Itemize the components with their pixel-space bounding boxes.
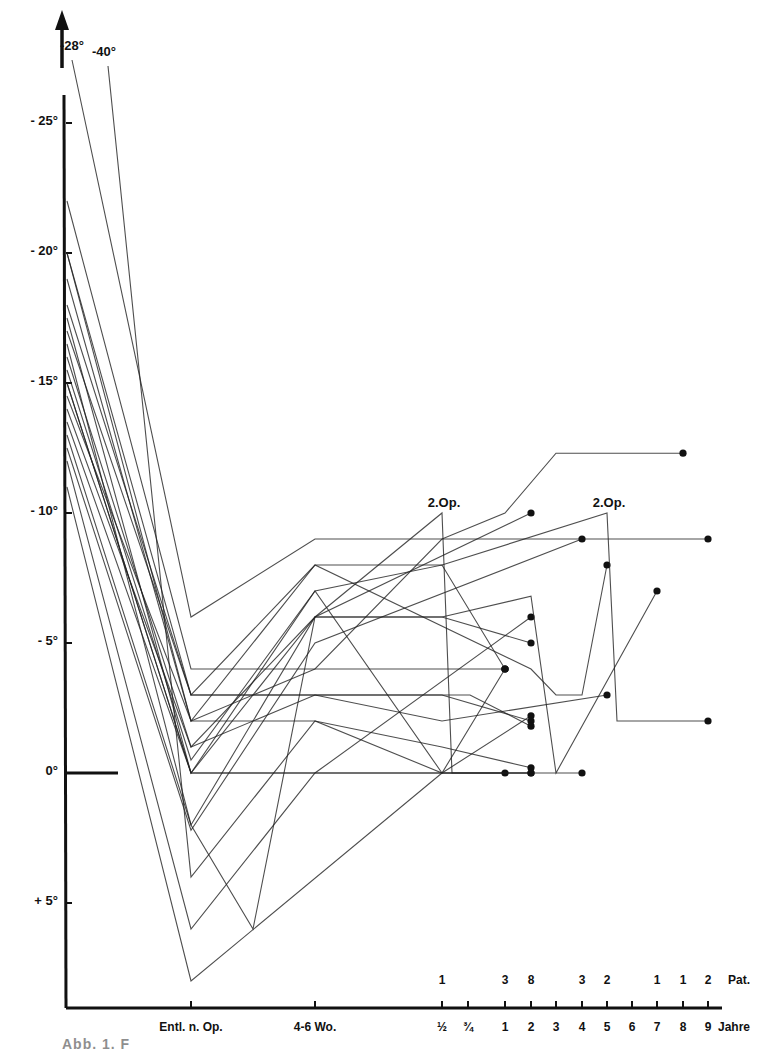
reoperation-annotation: 2.Op. [593,495,626,510]
y-axis-line [64,95,66,1008]
patient-line [67,318,531,773]
y-tick-label: - 20° [30,243,58,258]
patient-line [72,60,683,617]
patient-line [67,383,582,773]
patient-line [67,357,531,773]
endpoint-dot [527,723,534,730]
x-tick-label: 4-6 Wo. [294,1020,336,1034]
endpoint-dot [578,535,585,542]
patient-count: 3 [502,973,509,987]
x-axis: Entl. n. Op.4-6 Wo.½¾123456789Jahre [66,1001,750,1034]
endpoint-dot [679,450,686,457]
x-tick-label: 6 [629,1020,636,1034]
x-axis-ticks: Entl. n. Op.4-6 Wo.½¾123456789Jahre [159,1001,750,1034]
endpoint-dot [704,535,711,542]
x-tick-label: 1 [502,1020,509,1034]
figure-caption: Abb. 1. F [62,1036,130,1052]
endpoint-dot [578,769,585,776]
endpoint-dot [653,587,660,594]
x-tick-label: 7 [654,1020,661,1034]
x-tick-label: 5 [604,1020,611,1034]
y-tick-label: - 25° [30,113,58,128]
patient-series [67,60,712,981]
endpoint-dot [527,509,534,516]
chart-canvas: - 25°- 20°- 15°- 10°- 5°0°+ 5° Entl. n. … [0,0,773,1054]
patient-line [67,487,531,981]
x-tick-label: Entl. n. Op. [159,1020,222,1034]
endpoint-dot [527,769,534,776]
x-tick-label: 8 [680,1020,687,1034]
patient-count-label: Pat. [728,973,750,987]
x-tick-label: 3 [553,1020,560,1034]
y-tick-label: + 5° [34,893,58,908]
y-tick-label: - 15° [30,373,58,388]
patient-line [67,201,708,669]
y-tick-label: - 10° [30,503,58,518]
offscale-value-label: -40° [92,44,116,59]
offscale-labels: -28°-40° [60,38,116,59]
patient-count: 2 [705,973,712,987]
endpoint-dot [501,665,508,672]
patient-count: 1 [654,973,661,987]
y-tick-label: - 5° [38,633,58,648]
x-unit-label: Jahre [718,1020,750,1034]
arrow-up-icon [55,10,69,30]
patient-line [108,66,505,877]
x-tick-label: 2 [528,1020,535,1034]
x-tick-label: ¾ [463,1020,474,1034]
endpoint-dot [704,717,711,724]
patient-count: 3 [579,973,586,987]
y-tick-label: 0° [46,763,58,778]
x-tick-label: 4 [579,1020,586,1034]
patient-count: 2 [604,973,611,987]
patient-count: 1 [439,973,446,987]
patient-count: 1 [680,973,687,987]
endpoint-dot [527,639,534,646]
endpoint-dot [603,691,610,698]
annotations: 2.Op.2.Op. [428,495,626,510]
patient-count: 8 [528,973,535,987]
offscale-value-label: -28° [60,38,84,53]
x-tick-label: 9 [705,1020,712,1034]
patient-counts: 13832112Pat. [439,973,750,987]
x-tick-label: ½ [437,1020,447,1034]
y-axis: - 25°- 20°- 15°- 10°- 5°0°+ 5° [30,10,118,1008]
reoperation-annotation: 2.Op. [428,495,461,510]
endpoint-dot [527,712,534,719]
